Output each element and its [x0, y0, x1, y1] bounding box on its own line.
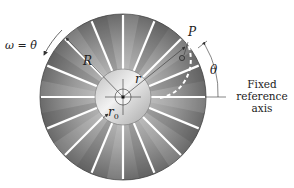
r0-label: r0 [108, 106, 119, 121]
ref-line-3: axis [232, 102, 292, 114]
fixed-reference-axis-label: Fixed reference axis [232, 78, 292, 114]
omega-label: ω = θ̇ [5, 40, 37, 51]
theta-radial-tick [198, 41, 207, 48]
particle-P [179, 55, 184, 60]
theta-label: θ [210, 64, 217, 76]
diagram: ω = θ̇ R r r0 P θ Fixed reference axis [0, 0, 294, 188]
P-label: P [188, 26, 196, 38]
ref-line-1: Fixed [232, 78, 292, 90]
r0-label-sub: 0 [114, 112, 119, 121]
ref-line-2: reference [232, 90, 292, 102]
R-label: R [83, 55, 92, 67]
r-label: r [135, 73, 141, 85]
